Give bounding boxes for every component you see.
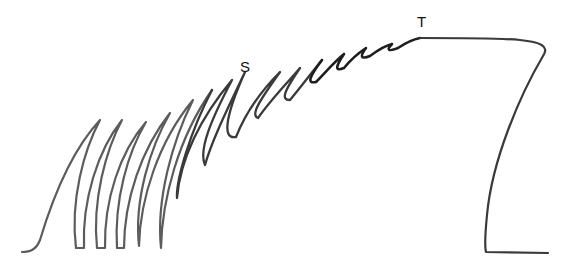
tetanus-fused-trace	[310, 38, 420, 82]
summation-label: S	[240, 58, 250, 75]
twitch-trace-middle	[177, 60, 322, 198]
tetanus-label: T	[417, 13, 426, 30]
muscle-tension-trace	[0, 0, 580, 270]
twitch-trace-early	[22, 90, 212, 252]
twitch-tetanus-diagram: S T	[0, 0, 580, 270]
tetanus-plateau-and-relaxation	[420, 38, 548, 253]
